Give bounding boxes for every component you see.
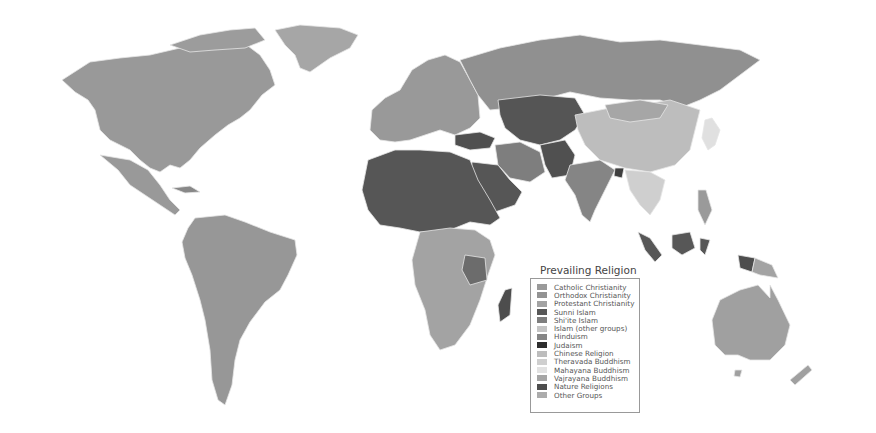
region-europe <box>370 55 480 142</box>
legend: Catholic ChristianityOrthodox Christiani… <box>530 278 640 413</box>
region-philippines <box>698 190 712 225</box>
legend-swatch <box>537 384 547 390</box>
region-turkey <box>455 132 495 150</box>
legend-swatch <box>537 301 547 307</box>
legend-swatch <box>537 359 547 365</box>
legend-swatch <box>537 375 547 381</box>
legend-swatch <box>537 317 547 323</box>
region-central-africa <box>412 228 495 350</box>
legend-swatch <box>537 309 547 315</box>
region-bangladesh <box>614 168 624 178</box>
legend-label: Other Groups <box>554 391 602 400</box>
legend-item: Hinduism <box>537 333 639 341</box>
region-australia <box>712 285 790 360</box>
legend-swatch <box>537 284 547 290</box>
region-russia <box>460 35 760 110</box>
legend-swatch <box>537 392 547 398</box>
legend-swatch <box>537 292 547 298</box>
legend-swatch <box>537 342 547 348</box>
region-png <box>752 258 778 278</box>
region-greenland <box>275 25 358 72</box>
world-map <box>0 0 876 433</box>
legend-swatch <box>537 351 547 357</box>
region-north-america <box>62 40 275 172</box>
region-central-asia <box>498 95 585 145</box>
region-south-america <box>182 215 297 405</box>
region-japan-korea <box>702 118 720 150</box>
region-new-zealand <box>790 365 812 385</box>
legend-item: Other Groups <box>537 391 639 399</box>
legend-item: Islam (other groups) <box>537 324 639 332</box>
region-caribbean <box>172 186 200 193</box>
region-madagascar <box>498 288 512 322</box>
legend-swatch <box>537 326 547 332</box>
legend-title: Prevailing Religion <box>540 264 637 276</box>
region-tasmania <box>734 370 742 377</box>
region-indonesia-borneo <box>672 232 695 255</box>
region-north-africa <box>362 150 500 232</box>
region-indonesia-sumatra <box>638 232 662 262</box>
legend-swatch <box>537 367 547 373</box>
legend-swatch <box>537 334 547 340</box>
region-india <box>565 160 615 222</box>
region-southeast-asia <box>625 170 665 215</box>
region-indonesia-sulawesi <box>700 238 710 255</box>
